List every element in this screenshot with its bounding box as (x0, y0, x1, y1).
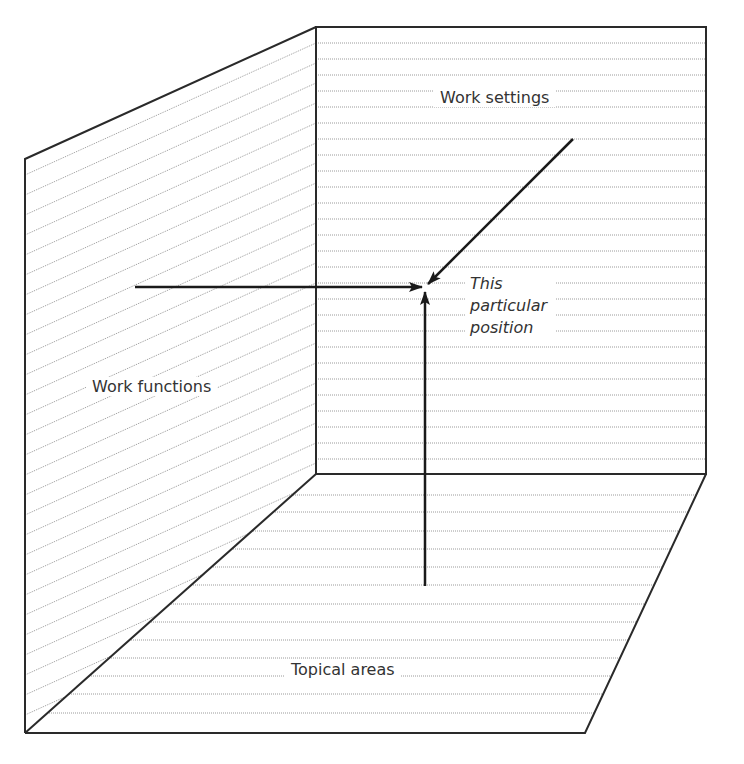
topical-areas-label: Topical areas (285, 660, 401, 679)
floor-corner-edge (25, 474, 316, 733)
work-settings-label: Work settings (434, 88, 555, 107)
focus-point-label: This particular position (466, 273, 555, 339)
work-functions-label: Work functions (86, 377, 217, 396)
floor-hatch (25, 495, 706, 713)
arrow-from-work-settings (428, 139, 573, 284)
